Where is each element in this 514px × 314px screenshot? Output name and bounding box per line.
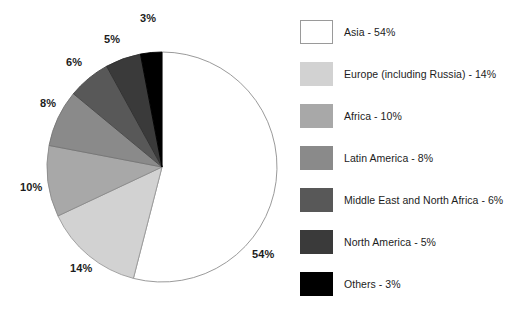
legend-item-label: Africa - 10% [344,110,402,122]
pie-slice-value-label: 14% [70,262,92,274]
legend-item[interactable]: Africa - 10% [300,104,514,128]
legend-color-swatch [300,62,333,86]
pie-chart-svg [0,0,300,314]
legend-item-label: Others - 3% [344,278,401,290]
legend-color-swatch [300,20,333,44]
legend-item[interactable]: Middle East and North Africa - 6% [300,188,514,212]
pie-slice-value-label: 8% [40,97,56,109]
pie-slice-value-label: 3% [140,12,156,24]
pie-slice-value-label: 54% [252,248,274,260]
pie-chart-plot-area: 54%14%10%8%6%5%3% [0,0,300,314]
legend-item[interactable]: Europe (including Russia) - 14% [300,62,514,86]
legend-color-swatch [300,104,333,128]
chart-legend: Asia - 54%Europe (including Russia) - 14… [300,20,514,296]
legend-item-label: Asia - 54% [344,26,395,38]
legend-item-label: Europe (including Russia) - 14% [344,68,496,80]
pie-slice-value-label: 6% [66,56,82,68]
legend-item[interactable]: Latin America - 8% [300,146,514,170]
legend-color-swatch [300,146,333,170]
pie-slice-value-label: 5% [104,33,120,45]
legend-item[interactable]: Asia - 54% [300,20,514,44]
legend-item-label: North America - 5% [344,236,436,248]
legend-item[interactable]: Others - 3% [300,272,514,296]
legend-item-label: Middle East and North Africa - 6% [344,194,503,206]
legend-color-swatch [300,188,333,212]
legend-item-label: Latin America - 8% [344,152,433,164]
pie-slice-value-label: 10% [20,181,42,193]
legend-color-swatch [300,230,333,254]
legend-item[interactable]: North America - 5% [300,230,514,254]
pie-chart-figure: 54%14%10%8%6%5%3% Asia - 54%Europe (incl… [0,0,514,314]
legend-color-swatch [300,272,333,296]
